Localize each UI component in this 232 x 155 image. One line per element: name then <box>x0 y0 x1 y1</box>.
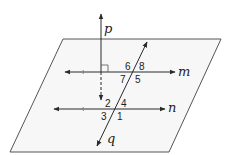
angle-2: 2 <box>105 98 111 109</box>
angle-5: 5 <box>135 74 141 85</box>
line-n-label: n <box>168 100 176 115</box>
line-m-label: m <box>178 64 190 79</box>
line-p-label: p <box>104 21 113 36</box>
angle-6: 6 <box>125 61 131 72</box>
angle-7: 7 <box>120 74 126 85</box>
geometry-diagram: m n p q 6 8 7 5 2 4 3 1 <box>0 0 232 155</box>
angle-1: 1 <box>117 111 123 122</box>
angle-3: 3 <box>101 111 107 122</box>
angle-8: 8 <box>139 61 145 72</box>
plane <box>10 39 221 152</box>
line-q-label: q <box>107 131 115 146</box>
angle-4: 4 <box>121 98 127 109</box>
